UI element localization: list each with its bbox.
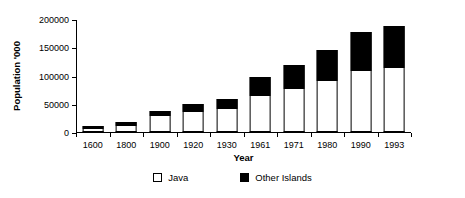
y-axis-tick	[72, 105, 76, 106]
x-axis-title: Year	[76, 152, 411, 163]
x-axis-tick-label: 1980	[317, 140, 337, 150]
bar-segment-other-islands	[283, 65, 304, 89]
x-axis-tick	[110, 133, 111, 137]
legend-label: Java	[168, 172, 188, 183]
x-axis-tick	[277, 133, 278, 137]
chart-container: Population '000 050000100000150000200000…	[0, 0, 465, 198]
bar-segment-java	[317, 81, 338, 132]
x-axis-tick-label: 1600	[83, 140, 103, 150]
x-axis-tick	[411, 133, 412, 137]
y-axis-tick	[72, 48, 76, 49]
y-axis-tick	[72, 77, 76, 78]
plot-area: 050000100000150000200000 160018001900192…	[76, 20, 411, 133]
bar-1930	[216, 99, 237, 132]
y-axis-title-label: Population '000	[11, 41, 22, 111]
bar-segment-java	[350, 71, 371, 132]
bar-segment-java	[384, 68, 405, 132]
bar-segment-other-islands	[384, 26, 405, 68]
x-axis-tick	[143, 133, 144, 137]
bar-1993	[384, 26, 405, 132]
bar-1980	[317, 50, 338, 132]
bar-segment-other-islands	[216, 99, 237, 109]
x-axis-tick-label: 1961	[250, 140, 270, 150]
y-axis-tick-label: 100000	[39, 72, 69, 82]
x-axis-tick	[344, 133, 345, 137]
bar-segment-java	[82, 129, 103, 132]
y-axis-tick-label: 0	[64, 128, 69, 138]
bar-segment-java	[216, 109, 237, 132]
legend-item-java: Java	[153, 172, 188, 183]
x-axis-tick-label: 1800	[116, 140, 136, 150]
bar-segment-other-islands	[183, 104, 204, 112]
bar-1600	[82, 126, 103, 132]
x-axis-tick	[76, 133, 77, 137]
x-axis-tick	[378, 133, 379, 137]
y-axis-line	[76, 20, 77, 133]
bar-segment-java	[116, 126, 137, 132]
x-axis-tick	[311, 133, 312, 137]
bar-segment-java	[250, 96, 271, 132]
bar-segment-java	[149, 116, 170, 132]
y-axis-title: Population '000	[8, 18, 24, 134]
y-axis-tick-label: 50000	[44, 100, 69, 110]
y-axis-tick	[72, 20, 76, 21]
x-axis-tick-label: 1990	[351, 140, 371, 150]
x-axis-tick	[177, 133, 178, 137]
bar-1990	[350, 32, 371, 132]
y-axis-tick-label: 200000	[39, 15, 69, 25]
bar-segment-other-islands	[317, 50, 338, 81]
filled-square-icon	[240, 173, 249, 182]
hollow-square-icon	[153, 173, 162, 182]
x-axis-tick-label: 1920	[183, 140, 203, 150]
legend-item-other-islands: Other Islands	[240, 172, 312, 183]
x-axis-tick	[210, 133, 211, 137]
bar-segment-other-islands	[350, 32, 371, 71]
legend-label: Other Islands	[255, 172, 312, 183]
x-axis-tick-label: 1971	[284, 140, 304, 150]
bar-segment-java	[183, 112, 204, 132]
bar-1920	[183, 104, 204, 132]
chart-legend: JavaOther Islands	[0, 172, 465, 183]
bar-1961	[250, 77, 271, 132]
x-axis-tick-label: 1930	[217, 140, 237, 150]
bar-1800	[116, 122, 137, 132]
bar-segment-other-islands	[250, 77, 271, 96]
bar-1900	[149, 111, 170, 132]
x-axis-tick-label: 1993	[384, 140, 404, 150]
bar-1971	[283, 65, 304, 132]
y-axis-tick-label: 150000	[39, 43, 69, 53]
x-axis-tick-label: 1900	[150, 140, 170, 150]
bar-segment-java	[283, 89, 304, 132]
x-axis-tick	[244, 133, 245, 137]
